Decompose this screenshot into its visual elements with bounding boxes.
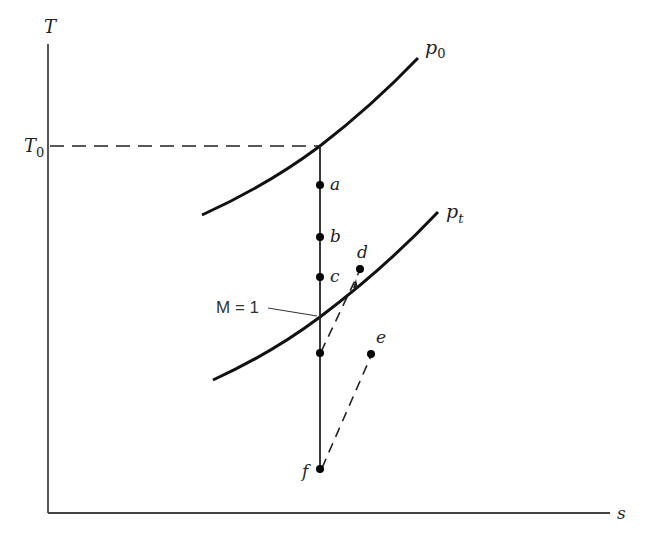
point-shock-start-marker <box>316 349 324 357</box>
isobar-p0-curve <box>202 58 418 215</box>
isobar-pt-label-subscript: t <box>458 211 464 226</box>
t0-label: T0 <box>24 135 44 160</box>
point-f-marker <box>316 465 324 473</box>
mach-one-label: M = 1 <box>216 298 259 317</box>
point-c-label: c <box>330 266 340 286</box>
isobar-pt-label: pt <box>446 200 464 226</box>
isobar-p0: p0 <box>202 36 445 215</box>
isobar-p0-label-main: p <box>425 36 437 58</box>
t0-reference: T0 <box>24 135 320 160</box>
point-d-marker <box>356 265 364 273</box>
isobar-p0-label: p0 <box>425 36 445 61</box>
dashed-path-to-e <box>322 356 371 468</box>
y-axis-label: T <box>44 16 58 37</box>
state-points: a b c d e f <box>300 174 386 481</box>
x-axis-label: s <box>617 503 626 523</box>
point-f-label: f <box>300 461 311 481</box>
point-a-marker <box>316 181 324 189</box>
t-s-diagram: T s T0 p0 pt a b c d e f <box>0 0 648 541</box>
isobar-pt-label-main: p <box>446 200 458 222</box>
t0-label-subscript: 0 <box>36 145 44 160</box>
shock-paths <box>321 272 371 468</box>
point-c-marker <box>316 273 324 281</box>
point-b-label: b <box>330 226 341 246</box>
point-a-label: a <box>330 174 340 194</box>
mach-one-leader-line <box>268 308 317 316</box>
isobar-pt-curve <box>213 212 438 380</box>
point-d-label: d <box>357 242 368 262</box>
mach-one-annotation: M = 1 <box>216 298 317 317</box>
isobar-p0-label-subscript: 0 <box>437 46 445 61</box>
point-b-marker <box>316 233 324 241</box>
point-e-label: e <box>376 327 386 347</box>
point-e-marker <box>367 350 375 358</box>
